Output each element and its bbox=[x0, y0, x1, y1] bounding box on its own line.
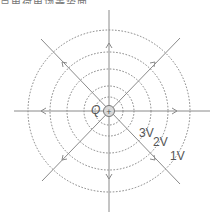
point-charge-diagram: + Q 3V 2V 1V bbox=[0, 0, 218, 222]
charge-label: Q bbox=[91, 103, 100, 117]
point-charge: + bbox=[104, 106, 115, 117]
charge-sign: + bbox=[106, 107, 111, 117]
label-3v: 3V bbox=[139, 126, 154, 140]
arrow-up-left-icon bbox=[62, 62, 67, 67]
label-2v: 2V bbox=[153, 135, 168, 149]
label-1v: 1V bbox=[170, 149, 185, 163]
